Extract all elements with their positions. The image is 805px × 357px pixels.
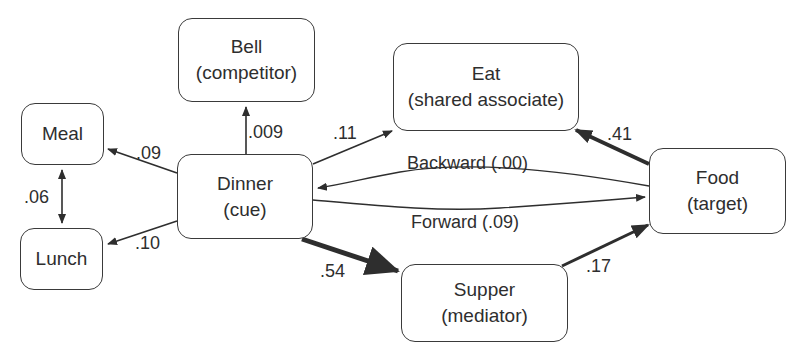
node-bell: Bell (competitor) bbox=[178, 18, 315, 102]
label-dinner-supper: .54 bbox=[320, 261, 345, 281]
node-bell-role: (competitor) bbox=[196, 60, 297, 86]
node-dinner-role: (cue) bbox=[223, 197, 266, 223]
node-eat-role: (shared associate) bbox=[408, 87, 564, 113]
node-lunch: Lunch bbox=[20, 228, 103, 290]
label-dinner-eat: .11 bbox=[333, 123, 357, 143]
node-eat: Eat (shared associate) bbox=[393, 43, 579, 131]
node-supper-role: (mediator) bbox=[441, 303, 528, 329]
label-dinner-bell: .009 bbox=[248, 122, 283, 142]
edge-dinner-supper bbox=[302, 239, 398, 271]
node-lunch-name: Lunch bbox=[36, 246, 88, 272]
label-food-eat: .41 bbox=[607, 124, 632, 144]
node-eat-name: Eat bbox=[472, 61, 501, 87]
edge-forward bbox=[313, 197, 645, 209]
node-supper-name: Supper bbox=[454, 277, 515, 303]
node-supper: Supper (mediator) bbox=[401, 264, 568, 342]
label-dinner-meal: .09 bbox=[136, 143, 161, 163]
label-forward: Forward (.09) bbox=[411, 212, 519, 232]
node-food-role: (target) bbox=[687, 191, 748, 217]
node-dinner-name: Dinner bbox=[217, 171, 273, 197]
node-dinner: Dinner (cue) bbox=[177, 154, 313, 239]
node-meal: Meal bbox=[21, 103, 104, 165]
node-bell-name: Bell bbox=[231, 34, 263, 60]
node-food-name: Food bbox=[696, 165, 739, 191]
label-backward: Backward (.00) bbox=[407, 153, 528, 173]
label-meal-lunch: .06 bbox=[24, 187, 49, 207]
label-dinner-lunch: .10 bbox=[135, 233, 160, 253]
node-meal-name: Meal bbox=[42, 121, 83, 147]
node-food: Food (target) bbox=[649, 148, 786, 234]
label-supper-food: .17 bbox=[586, 256, 611, 276]
